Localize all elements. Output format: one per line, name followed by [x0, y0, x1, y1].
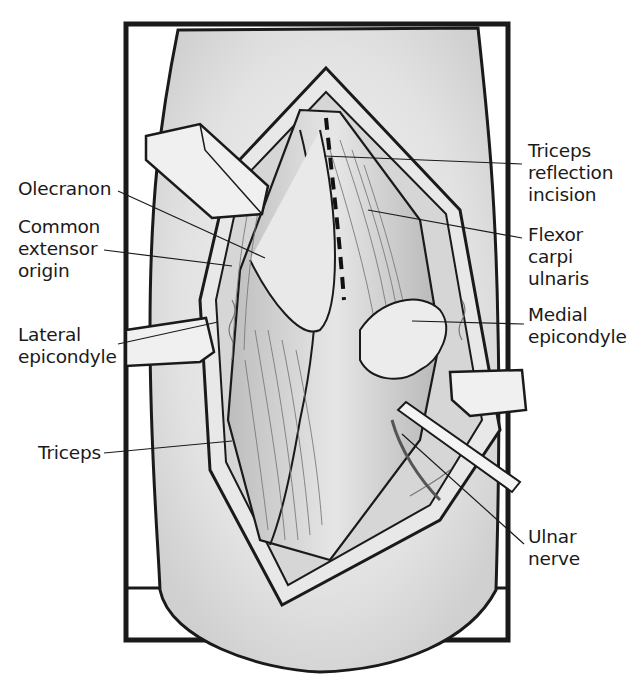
label-triceps-reflection-incision: Triceps reflection incision: [528, 140, 613, 206]
retractor-right: [450, 370, 526, 416]
label-triceps: Triceps: [38, 442, 101, 464]
label-olecranon: Olecranon: [18, 178, 111, 200]
label-common-extensor-origin: Common extensor origin: [18, 216, 100, 282]
anatomy-figure: Olecranon Common extensor origin Lateral…: [0, 0, 636, 683]
label-lateral-epicondyle: Lateral epicondyle: [18, 324, 117, 368]
label-medial-epicondyle: Medial epicondyle: [528, 304, 627, 348]
label-flexor-carpi-ulnaris: Flexor carpi ulnaris: [528, 224, 589, 290]
label-ulnar-nerve: Ulnar nerve: [528, 526, 580, 570]
